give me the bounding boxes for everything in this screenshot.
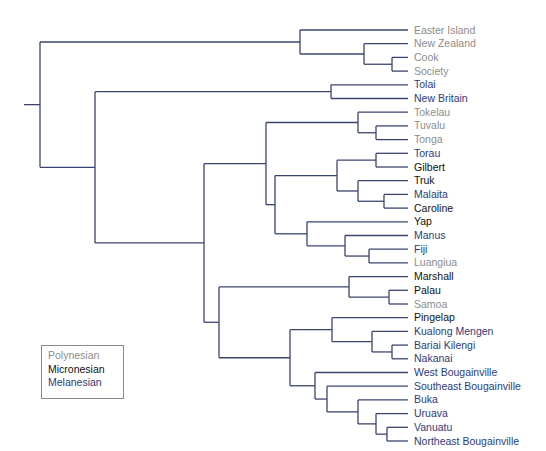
legend: Polynesian Micronesian Melanesian [41,345,124,399]
leaf-label: Buka [414,393,438,405]
leaf-label: West Bougainville [414,366,497,378]
leaf-label: Kualong Mengen [414,325,493,337]
leaf-label: Pingelap [414,311,455,323]
leaf-label: Marshall [414,270,454,282]
leaf-label: Malaita [414,188,448,200]
legend-polynesian: Polynesian [48,349,123,363]
leaf-label: Northeast Bougainville [414,435,519,447]
leaf-label: Easter Island [414,24,475,36]
leaf-label: Bariai Kilengi [414,339,475,351]
leaf-label: Samoa [414,298,447,310]
leaf-label: Uruava [414,407,448,419]
legend-melanesian: Melanesian [48,376,123,390]
leaf-label: Southeast Bougainville [414,380,521,392]
leaf-label: Tokelau [414,106,450,118]
leaf-label: Palau [414,284,441,296]
leaf-label: Vanuatu [414,421,452,433]
leaf-label: Luangiua [414,256,457,268]
legend-micronesian: Micronesian [48,363,123,377]
leaf-label: Fiji [414,243,427,255]
leaf-label: Manus [414,229,446,241]
leaf-label: Caroline [414,202,453,214]
leaf-label: Cook [414,51,439,63]
leaf-label: Gilbert [414,161,445,173]
leaf-label: Society [414,65,448,77]
leaf-label: Truk [414,174,435,186]
leaf-label: Tolai [414,78,436,90]
leaf-label: Tonga [414,133,443,145]
leaf-label: Tuvalu [414,119,445,131]
leaf-label: Torau [414,147,440,159]
leaf-label: Yap [414,215,432,227]
leaf-label: New Britain [414,92,468,104]
leaf-label: Nakanai [414,352,453,364]
leaf-label: New Zealand [414,37,476,49]
